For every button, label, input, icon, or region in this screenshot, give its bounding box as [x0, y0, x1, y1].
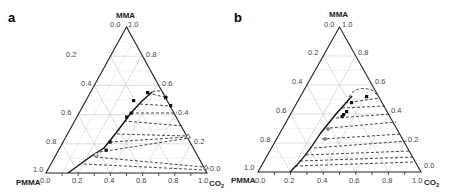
tick-label: 0.6	[61, 108, 71, 117]
tick-label: 0.4	[391, 106, 401, 115]
tick-label: 0.0	[324, 20, 334, 29]
tick-label: 1.0	[33, 165, 43, 174]
vertex-left-label: PMMA	[231, 176, 256, 185]
binodal-curve	[68, 92, 152, 173]
tick-label: 0.6	[276, 106, 286, 115]
tick-label: 1.0	[244, 163, 254, 172]
tick-label: 0.0	[255, 176, 265, 185]
tick-label: 1.0	[128, 20, 138, 29]
tick-label: 0.2	[194, 137, 204, 146]
tick-label: 0.8	[146, 50, 156, 59]
tick-label: 1.0	[412, 176, 422, 185]
tick-label: 0.6	[136, 176, 146, 185]
tick-label: 0.2	[66, 50, 76, 59]
panel-a: a	[8, 10, 224, 189]
tick-label: 0.4	[104, 176, 114, 185]
vertex-top-label: MMA	[116, 11, 135, 20]
tick-label: 0.4	[292, 77, 302, 86]
tick-label: 0.0	[110, 20, 120, 29]
tick-label: 0.8	[46, 137, 56, 146]
tick-label: 0.8	[358, 48, 368, 57]
vertex-left-label: PMMA	[16, 178, 41, 187]
tick-label: 0.2	[72, 176, 82, 185]
panel-letter-b: b	[234, 10, 242, 25]
tick-label: 0.4	[178, 108, 188, 117]
tick-label: 0.0	[210, 164, 220, 173]
tick-label: 0.8	[168, 176, 178, 185]
tick-label: 0.8	[382, 176, 392, 185]
tick-label: 1.0	[198, 176, 208, 185]
tick-label: 0.6	[349, 176, 359, 185]
tick-label: 1.0	[342, 20, 352, 29]
tick-label: 0.0	[40, 176, 50, 185]
ternary-figure: a	[0, 0, 453, 193]
tick-label: 0.4	[317, 176, 327, 185]
tick-label: 0.2	[408, 135, 418, 144]
vertex-right-label: CO2	[209, 179, 224, 189]
vertex-top-label: MMA	[329, 10, 348, 19]
tick-label: 0.6	[162, 79, 172, 88]
tick-label: 0.2	[284, 176, 294, 185]
tick-label: 0.6	[375, 77, 385, 86]
tick-label: 0.4	[81, 79, 91, 88]
tick-label: 0.0	[424, 161, 434, 170]
panel-b: b	[231, 10, 439, 188]
tick-label: 0.2	[308, 48, 318, 57]
tick-label: 0.8	[260, 135, 270, 144]
vertex-right-label: CO2	[424, 178, 439, 188]
panel-letter-a: a	[8, 10, 16, 25]
